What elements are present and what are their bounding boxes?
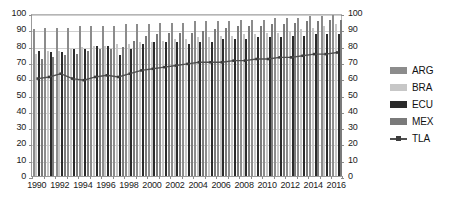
x-tick (170, 176, 171, 179)
legend-item-tla[interactable]: TLA (390, 130, 454, 147)
x-tick (136, 176, 137, 179)
y-axis-left-tick-label: 80 (0, 42, 26, 51)
x-tick (55, 176, 56, 179)
x-tick (147, 176, 148, 179)
x-tick (342, 176, 343, 179)
legend-label: ARG (412, 65, 433, 76)
legend-swatch (390, 67, 407, 74)
x-axis-label: 2010 (258, 180, 277, 190)
legend-label: BRA (412, 82, 432, 93)
tla-marker (163, 66, 166, 69)
x-tick (182, 176, 183, 179)
y-axis-left-tick-label: 20 (0, 139, 26, 148)
tla-marker (267, 58, 270, 61)
x-axis-label: 1998 (119, 180, 138, 190)
tla-marker (255, 58, 258, 61)
x-axis-label: 1996 (96, 180, 115, 190)
y-axis-left-tick-label: 90 (0, 25, 26, 34)
tla-marker (313, 53, 316, 56)
y-axis-left-tick-label: 40 (0, 107, 26, 116)
x-tick (90, 176, 91, 179)
chart-container: 1990199219941996199820002002200420062008… (0, 0, 456, 220)
tla-marker (48, 76, 51, 79)
x-tick (32, 176, 33, 179)
tla-marker (198, 61, 201, 64)
tla-line-series (32, 15, 343, 178)
tla-marker (324, 53, 327, 56)
tla-marker (36, 77, 39, 80)
x-tick (124, 176, 125, 179)
x-tick (285, 176, 286, 179)
x-tick (251, 176, 252, 179)
tla-marker (71, 77, 74, 80)
x-tick (44, 176, 45, 179)
x-tick (320, 176, 321, 179)
y-axis-right-tick-label: 10 (348, 156, 374, 165)
legend-label: ECU (412, 99, 433, 110)
tla-marker (140, 69, 143, 72)
legend-swatch (390, 84, 407, 91)
y-axis-right-tick-label: 70 (348, 58, 374, 67)
x-axis-label: 1992 (50, 180, 69, 190)
y-axis-right-tick-label: 80 (348, 42, 374, 51)
tla-marker (186, 63, 189, 66)
tla-marker (152, 67, 155, 70)
y-axis-right-tick-label: 100 (348, 9, 374, 18)
x-tick (101, 176, 102, 179)
x-tick (67, 176, 68, 179)
legend-item-arg[interactable]: ARG (390, 62, 454, 79)
legend-item-bra[interactable]: BRA (390, 79, 454, 96)
tla-marker (232, 59, 235, 62)
x-axis-labels: 1990199219941996199820002002200420062008… (31, 180, 342, 196)
x-axis-label: 2014 (304, 180, 323, 190)
plot-area (31, 14, 342, 177)
tla-marker (221, 61, 224, 64)
tla-marker (106, 74, 109, 77)
y-axis-right-tick-label: 60 (348, 74, 374, 83)
legend-item-ecu[interactable]: ECU (390, 96, 454, 113)
y-axis-left-tick-label: 30 (0, 123, 26, 132)
tla-marker (278, 56, 281, 59)
legend-swatch (390, 101, 407, 108)
tla-marker (117, 76, 120, 79)
tla-marker (83, 79, 86, 82)
y-axis-left-tick-label: 70 (0, 58, 26, 67)
x-tick (113, 176, 114, 179)
tla-marker (94, 76, 97, 79)
x-tick (228, 176, 229, 179)
chart-legend: ARGBRAECUMEXTLA (390, 62, 454, 147)
y-axis-right-tick-label: 0 (348, 172, 374, 181)
y-axis-right-tick-label: 20 (348, 139, 374, 148)
y-axis-left-tick-label: 50 (0, 91, 26, 100)
x-axis-label: 2012 (281, 180, 300, 190)
x-tick (193, 176, 194, 179)
y-axis-right-tick-label: 90 (348, 25, 374, 34)
x-tick (274, 176, 275, 179)
legend-item-mex[interactable]: MEX (390, 113, 454, 130)
y-axis-right-tick-label: 40 (348, 107, 374, 116)
y-axis-right-tick-label: 30 (348, 123, 374, 132)
x-axis-label: 1994 (73, 180, 92, 190)
y-axis-left-tick-label: 0 (0, 172, 26, 181)
x-axis-label: 1990 (27, 180, 46, 190)
tla-marker (209, 61, 212, 64)
x-tick (159, 176, 160, 179)
y-axis-right-tick-label: 50 (348, 91, 374, 100)
y-axis-left-tick-label: 60 (0, 74, 26, 83)
tla-marker (244, 59, 247, 62)
y-axis-left-tick-label: 10 (0, 156, 26, 165)
y-axis-left-tick-label: 100 (0, 9, 26, 18)
x-tick (297, 176, 298, 179)
tla-marker (336, 51, 339, 54)
x-tick (262, 176, 263, 179)
x-tick (331, 176, 332, 179)
tla-marker (59, 72, 62, 75)
legend-swatch (390, 118, 407, 125)
tla-marker (175, 64, 178, 67)
x-tick (239, 176, 240, 179)
x-axis-label: 2004 (188, 180, 207, 190)
x-axis-label: 2016 (327, 180, 346, 190)
x-axis-label: 2002 (165, 180, 184, 190)
x-axis-label: 2008 (234, 180, 253, 190)
x-axis-label: 2006 (211, 180, 230, 190)
